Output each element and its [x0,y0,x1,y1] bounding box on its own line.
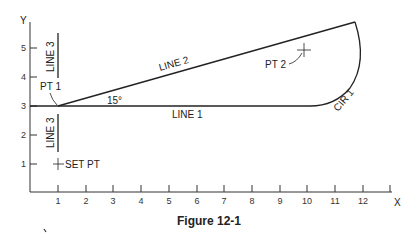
y-tick-4: 4 [21,72,26,82]
pt1-leader-arrow [50,93,57,105]
y-tick-2: 2 [21,130,26,140]
x-tick-3: 3 [110,196,115,206]
x-tick-6: 6 [194,196,199,206]
set-pt-cross-marker [53,158,64,170]
x-tick-2: 2 [83,196,88,206]
pt2-cross-marker [297,43,311,57]
y-axis-label: Y [20,15,27,26]
x-tick-4: 4 [138,196,143,206]
line3-upper-label: LINE 3 [45,41,56,72]
x-tick-9: 9 [277,196,282,206]
x-ticks [58,185,390,192]
x-tick-1: 1 [55,196,60,206]
pt2-leader-arrow [289,53,302,64]
y-tick-1: 1 [21,159,26,169]
line3-lower-label: LINE 3 [45,117,56,148]
line2 [58,22,355,106]
x-tick-10: 10 [302,196,312,206]
angle-label: 15° [107,95,122,106]
line1-label: LINE 1 [172,109,203,120]
pt1-label: PT 1 [40,81,61,92]
figure-diagram: Y X 1 2 3 4 5 1 2 3 4 5 6 7 8 9 10 11 12 [0,0,418,240]
figure-caption: Figure 12-1 [177,214,241,228]
y-tick-3: 3 [21,101,26,111]
set-pt-label: SET PT [65,159,100,170]
stray-mark [44,229,46,232]
x-axis-label: X [394,197,401,208]
x-tick-8: 8 [249,196,254,206]
x-tick-7: 7 [221,196,226,206]
x-tick-12: 12 [358,196,368,206]
pt2-label: PT 2 [265,59,286,70]
x-tick-5: 5 [166,196,171,206]
x-tick-11: 11 [330,196,339,206]
y-tick-5: 5 [21,43,26,53]
